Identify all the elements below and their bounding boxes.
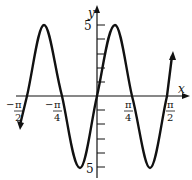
x-axis-label: x [178,82,185,96]
svg-text:π: π [15,99,22,110]
y-min-label: 5 [86,162,94,176]
sine-graph: y x 5 5 − π 2 − π 4 π 4 π 2 [0,0,192,180]
svg-text:2: 2 [167,112,173,123]
svg-text:π: π [125,99,132,110]
y-axis-arrow-icon [94,5,100,13]
svg-text:4: 4 [54,112,60,123]
svg-text:−: − [6,99,14,110]
curve-arrow-right-icon [169,51,176,60]
svg-text:−: − [45,99,53,110]
svg-text:π: π [167,99,174,110]
y-max-label: 5 [84,19,92,33]
x-tick-labels: − π 2 − π 4 π 4 π 2 [6,99,175,123]
y-axis-label: y [87,6,95,20]
svg-text:4: 4 [125,112,131,123]
svg-text:2: 2 [15,112,21,123]
svg-text:π: π [54,99,61,110]
